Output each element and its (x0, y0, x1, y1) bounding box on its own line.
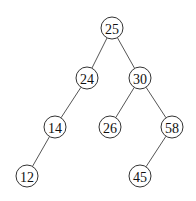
tree-edge-24-14 (61, 87, 81, 118)
node-label: 45 (133, 170, 147, 185)
tree-edge-30-26 (116, 87, 135, 117)
tree-node-25: 25 (101, 17, 123, 39)
tree-edge-25-24 (92, 38, 107, 68)
tree-node-58: 58 (161, 116, 183, 138)
binary-tree-diagram: 2524301426581245 (0, 0, 196, 201)
tree-node-45: 45 (129, 165, 151, 187)
tree-node-26: 26 (99, 116, 121, 138)
node-label: 25 (105, 22, 119, 37)
tree-node-30: 30 (129, 67, 151, 89)
tree-edge-58-45 (146, 136, 166, 167)
tree-node-12: 12 (16, 165, 38, 187)
node-label: 24 (80, 72, 94, 87)
tree-edge-30-58 (146, 87, 166, 118)
node-label: 58 (165, 121, 179, 136)
node-label: 12 (20, 170, 34, 185)
tree-edge-14-12 (32, 137, 49, 167)
node-label: 26 (103, 121, 117, 136)
node-label: 14 (48, 121, 62, 136)
tree-edges (32, 38, 166, 167)
tree-node-24: 24 (76, 67, 98, 89)
tree-edge-25-30 (117, 38, 134, 69)
tree-nodes: 2524301426581245 (16, 17, 183, 187)
tree-node-14: 14 (44, 116, 66, 138)
node-label: 30 (133, 72, 147, 87)
